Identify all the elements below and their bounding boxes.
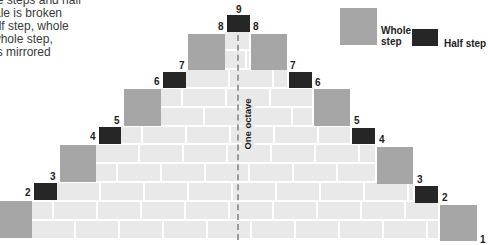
brick <box>143 127 185 143</box>
brick <box>183 89 225 106</box>
brick <box>340 221 382 238</box>
brick <box>365 183 407 200</box>
brick <box>316 145 358 162</box>
brick <box>318 202 360 219</box>
step-number-8-left: 8 <box>218 22 224 32</box>
brick <box>293 108 312 125</box>
brick <box>142 202 184 219</box>
brick <box>249 108 291 125</box>
whole-step-block-right-7 <box>251 34 287 70</box>
brick <box>32 202 52 219</box>
brick <box>161 89 181 106</box>
brick <box>274 70 287 87</box>
brick <box>96 164 116 181</box>
brick <box>121 127 141 143</box>
legend-whole-line1: Whole <box>381 25 411 36</box>
legend-half-step-swatch <box>412 29 438 46</box>
whole-step-block-right-3 <box>377 147 413 184</box>
step-number-2-left: 2 <box>25 188 31 198</box>
brick <box>54 202 96 219</box>
brick <box>32 221 74 238</box>
brick <box>274 202 316 219</box>
brick <box>145 183 187 200</box>
whole-step-block-left-5 <box>124 89 161 126</box>
brick <box>362 202 404 219</box>
brick <box>319 127 350 143</box>
step-number-5-right: 5 <box>354 116 360 126</box>
brick <box>208 221 250 238</box>
brick <box>250 164 292 181</box>
brick <box>101 183 143 200</box>
brick <box>120 221 162 238</box>
step-number-4-left: 4 <box>90 132 96 142</box>
brick <box>233 183 275 200</box>
brick <box>118 164 160 181</box>
brick <box>247 51 249 68</box>
brick <box>76 221 118 238</box>
half-step-block-top <box>227 15 250 32</box>
step-number-9: 9 <box>236 5 242 15</box>
brick <box>186 70 228 87</box>
legend-half-step-label: Half step <box>444 38 486 49</box>
brick <box>205 108 247 125</box>
whole-step-block-left-1 <box>0 201 32 238</box>
brick <box>140 145 182 162</box>
brick <box>338 164 375 181</box>
brick <box>277 183 319 200</box>
half-step-block-right-6 <box>289 72 312 88</box>
step-number-3-right: 3 <box>417 175 423 185</box>
whole-step-block-left-7 <box>188 34 225 70</box>
half-step-block-left-6 <box>163 72 186 88</box>
whole-step-block-right-1 <box>440 205 477 241</box>
brick <box>406 202 438 219</box>
step-number-1-right: 1 <box>480 235 486 245</box>
brick <box>98 202 140 219</box>
brick <box>57 183 99 200</box>
brick <box>409 183 413 200</box>
half-step-block-right-4 <box>352 128 375 144</box>
brick <box>428 221 438 238</box>
legend-whole-step-label: Whole step <box>381 25 411 47</box>
half-step-block-left-2 <box>34 183 57 200</box>
step-number-7-right: 7 <box>290 61 296 71</box>
brick <box>384 221 426 238</box>
step-number-2-right: 2 <box>442 193 448 203</box>
step-number-3-left: 3 <box>50 172 56 182</box>
brick <box>294 164 336 181</box>
brick <box>272 145 314 162</box>
step-number-5-left: 5 <box>114 116 120 126</box>
legend-whole-line2: step <box>381 36 411 47</box>
brick <box>162 164 204 181</box>
brick <box>164 221 206 238</box>
brick <box>275 127 317 143</box>
brick <box>321 183 363 200</box>
octave-divider-line <box>237 15 239 240</box>
step-number-4-right: 4 <box>379 135 385 145</box>
whole-step-block-right-5 <box>314 89 350 126</box>
half-step-block-left-4 <box>99 127 121 144</box>
legend-whole-step-swatch <box>340 8 377 45</box>
brick <box>187 127 229 143</box>
whole-step-block-left-3 <box>60 145 96 182</box>
brick <box>252 221 294 238</box>
brick <box>161 108 203 125</box>
octave-label: One octave <box>242 94 254 154</box>
step-number-6-right: 6 <box>315 78 321 88</box>
brick <box>96 145 138 162</box>
brick <box>206 164 248 181</box>
brick <box>186 202 228 219</box>
brick <box>271 89 312 106</box>
brick <box>360 145 375 162</box>
step-number-8-right: 8 <box>253 22 259 32</box>
brick <box>225 51 245 68</box>
step-number-6-left: 6 <box>154 77 160 87</box>
brick <box>189 183 231 200</box>
half-step-block-right-2 <box>415 186 438 203</box>
brick <box>296 221 338 238</box>
brick <box>184 145 226 162</box>
step-number-7-left: 7 <box>179 61 185 71</box>
